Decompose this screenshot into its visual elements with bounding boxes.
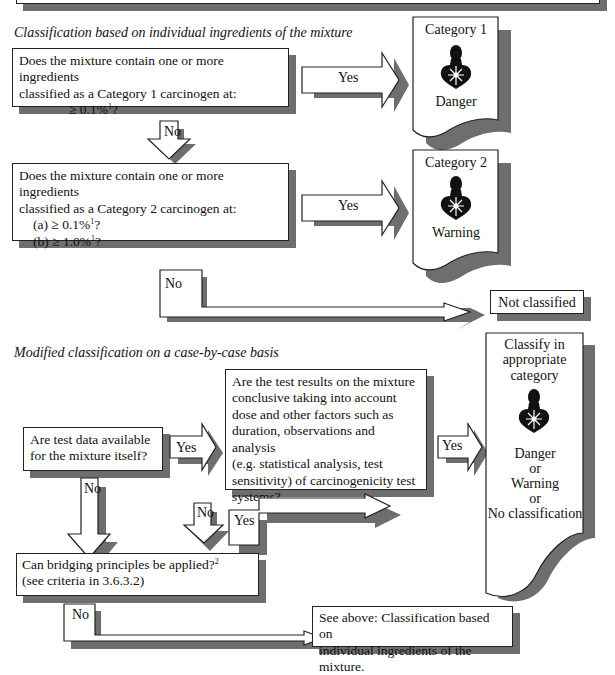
health-hazard-icon <box>440 176 472 220</box>
result3-line2: appropriate <box>486 352 583 367</box>
result2-signal: Warning <box>413 225 499 241</box>
result3-or1: or <box>484 461 586 476</box>
result3-no-classification: No classification <box>484 506 586 521</box>
question-test-data-box: Are test data available for the mixture … <box>23 427 163 471</box>
result3-signals: Danger or Warning or No classification <box>484 446 586 522</box>
q5-line1: Can bridging principles be applied?2 <box>22 557 253 573</box>
q1-line1: Does the mixture contain one or more ing… <box>19 53 282 86</box>
q2-line1: Does the mixture contain one or more ing… <box>19 168 282 201</box>
result3-danger: Danger <box>484 446 586 461</box>
q4-line4: duration, observations and analysis <box>232 423 420 456</box>
section2-title: Modified classification on a case-by-cas… <box>14 345 279 361</box>
section1-title: Classification based on individual ingre… <box>14 25 352 41</box>
yes-label-1: Yes <box>338 70 358 86</box>
result1-category: Category 1 <box>413 22 499 38</box>
previous-box <box>16 0 600 4</box>
question-conclusive-box: Are the test results on the mixture conc… <box>225 369 427 490</box>
not-classified-box: Not classified <box>490 290 584 314</box>
no-arrow-5 <box>64 604 324 659</box>
q2-line2: classified as a Category 2 carcinogen at… <box>19 201 282 217</box>
q2-line3: (a) ≥ 0.1%1? <box>19 217 282 233</box>
result3-warning: Warning <box>484 476 586 491</box>
no-label-1: No <box>164 124 181 140</box>
q4-line5: (e.g. statistical analysis, test <box>232 456 420 472</box>
q4-line2: conclusive taking into account <box>232 390 420 406</box>
no-label-4: No <box>197 505 214 521</box>
no-arrow-2 <box>160 270 480 332</box>
result3-or2: or <box>484 491 586 506</box>
result3-line3: category <box>486 368 583 383</box>
q1-line3: ≥ 0.1%1? <box>19 102 282 118</box>
result2-category: Category 2 <box>413 155 499 171</box>
see-above-line2: individual ingredients of the mixture. <box>319 643 506 675</box>
q2-line4: (b) ≥ 1.0%1? <box>19 234 282 250</box>
q1-line2: classified as a Category 1 carcinogen at… <box>19 86 282 102</box>
yes-label-4: Yes <box>442 438 462 454</box>
q4-line1: Are the test results on the mixture <box>232 374 420 390</box>
question-bridging-box: Can bridging principles be applied?2 (se… <box>16 553 259 596</box>
no-label-3: No <box>84 481 101 497</box>
result3-line1: Classify in <box>486 337 583 352</box>
q4-line3: dose and other factors such as <box>232 407 420 423</box>
q5-line2: (see criteria in 3.6.3.2) <box>22 573 253 589</box>
q3-line2: for the mixture itself? <box>30 448 156 464</box>
result1-signal: Danger <box>413 94 499 110</box>
question-category2-box: Does the mixture contain one or more ing… <box>12 163 289 241</box>
question-category1-box: Does the mixture contain one or more ing… <box>12 48 289 107</box>
q3-line1: Are test data available <box>30 432 156 448</box>
no-label-5: No <box>72 607 89 623</box>
yes-label-2: Yes <box>338 198 358 214</box>
yes-arrow-5 <box>229 496 399 554</box>
health-hazard-icon <box>518 389 550 433</box>
yes-label-3: Yes <box>176 440 196 456</box>
no-label-2: No <box>165 276 182 292</box>
see-above-line1: See above: Classification based on <box>319 610 506 643</box>
yes-label-5: Yes <box>234 513 254 529</box>
see-above-box: See above: Classification based on indiv… <box>312 606 513 647</box>
health-hazard-icon <box>440 45 472 89</box>
q4-line6: sensitivity) of carcinogenicity test <box>232 473 420 489</box>
result3-heading: Classify in appropriate category <box>486 337 583 383</box>
